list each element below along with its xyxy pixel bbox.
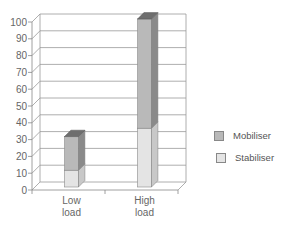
- grid-diagonal: [32, 182, 40, 190]
- grid-diagonal: [32, 98, 40, 106]
- grid-diagonal: [32, 64, 40, 72]
- bar-segment-mobiliser: [65, 137, 79, 171]
- grid-diagonal: [32, 31, 40, 39]
- bar-side-mobiliser: [152, 13, 158, 129]
- legend-label-stabiliser: Stabiliser: [235, 152, 274, 163]
- y-tick-label: 70: [16, 67, 28, 78]
- bar-segment-stabiliser: [138, 128, 152, 187]
- grid-diagonal: [32, 14, 40, 22]
- y-tick-label: 50: [16, 101, 28, 112]
- grid-diagonal: [32, 115, 40, 123]
- y-tick-label: 90: [16, 33, 28, 44]
- y-tick-label: 20: [16, 151, 28, 162]
- bar-side-stabiliser: [152, 122, 158, 187]
- y-tick-label: 100: [10, 17, 27, 28]
- legend-label-mobiliser: Mobiliser: [233, 130, 271, 141]
- y-tick-label: 10: [16, 168, 28, 179]
- y-tick-label: 80: [16, 50, 28, 61]
- grid-diagonal: [32, 81, 40, 89]
- legend-item-stabiliser: Stabiliser: [216, 151, 274, 164]
- y-tick-label: 0: [21, 185, 27, 196]
- y-tick-label: 30: [16, 134, 28, 145]
- x-category-label: load: [62, 207, 81, 218]
- floor-right-edge: [178, 182, 186, 190]
- legend-item-mobiliser: Mobiliser: [214, 129, 274, 142]
- chart-legend: Mobiliser Stabiliser: [214, 129, 274, 173]
- bar-segment-stabiliser: [65, 170, 79, 187]
- y-tick-label: 60: [16, 84, 28, 95]
- bar-side-mobiliser: [79, 130, 85, 170]
- legend-swatch-mobiliser: [214, 131, 224, 141]
- x-category-label: load: [135, 207, 154, 218]
- grid-diagonal: [32, 165, 40, 173]
- grid-diagonal: [32, 48, 40, 56]
- x-category-label: Low: [62, 195, 81, 206]
- grid-diagonal: [32, 148, 40, 156]
- y-tick-label: 40: [16, 117, 28, 128]
- x-category-label: High: [134, 195, 155, 206]
- grid-diagonal: [32, 132, 40, 140]
- legend-swatch-stabiliser: [216, 153, 226, 163]
- stacked-bar-chart: 0102030405060708090100LowloadHighload: [0, 0, 283, 229]
- bar-segment-mobiliser: [138, 19, 152, 128]
